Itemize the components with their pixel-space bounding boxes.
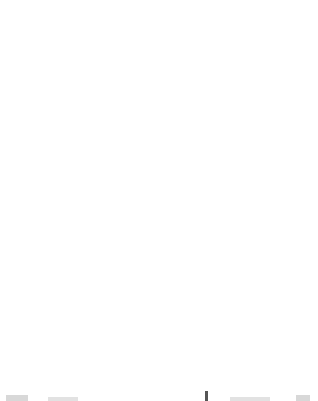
parabola-chart [0, 0, 318, 401]
cropped-caption-text [0, 389, 318, 401]
